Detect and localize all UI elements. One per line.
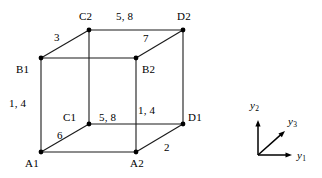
vertex-label-a2: A2 [130, 158, 144, 169]
cube-vertex-a1 [39, 150, 44, 155]
edge-label-a2-d1: 2 [164, 142, 170, 153]
vertex-label-a1: A1 [25, 158, 39, 169]
cube-vertex-b1 [39, 56, 44, 61]
axis-label-y3: y3 [288, 116, 297, 128]
edge-label-a1-c1: 6 [57, 130, 63, 141]
cube-vertex-c1 [87, 122, 92, 127]
axis-label-subscript-y1: 1 [302, 154, 306, 163]
cube-edge-a2-d1 [136, 124, 183, 152]
edge-label-c1-d1: 5, 8 [99, 112, 116, 123]
vertex-label-d2: D2 [177, 11, 191, 22]
axis-arrowhead-y1 [286, 152, 293, 157]
vertex-label-c1: C1 [63, 112, 76, 123]
cube-diagram-figure: A1A2B1B2C1C2D1D2 35, 871, 45, 81, 462 y1… [0, 0, 322, 178]
edge-label-b2-d2: 7 [143, 33, 149, 44]
diagram-canvas [0, 0, 322, 178]
vertex-label-d1: D1 [188, 112, 202, 123]
axis-arrowhead-y2 [255, 120, 260, 127]
edge-label-a1-b1: 1, 4 [9, 98, 26, 109]
axis-label-subscript-y2: 2 [255, 104, 259, 113]
axis-label-subscript-y3: 3 [293, 120, 297, 129]
cube-vertex-c2 [87, 28, 92, 33]
cube-edge-b1-c2 [41, 30, 89, 58]
cube-vertex-a2 [134, 150, 139, 155]
axis-label-y2: y2 [250, 100, 259, 112]
axis-shaft-y3 [258, 135, 281, 155]
axis-label-y1: y1 [297, 150, 306, 162]
vertex-label-b1: B1 [16, 64, 29, 75]
vertex-label-b2: B2 [142, 64, 155, 75]
edge-label-c2-d2: 5, 8 [116, 11, 133, 22]
cube-vertex-d2 [181, 28, 186, 33]
cube-vertex-b2 [134, 56, 139, 61]
edge-label-a2-b2: 1, 4 [138, 105, 155, 116]
edge-label-b1-c2: 3 [54, 32, 60, 43]
coordinate-axis-triad [255, 120, 292, 158]
cube-edge-a1-c1 [41, 124, 89, 152]
cube-vertex-d1 [181, 122, 186, 127]
vertex-label-c2: C2 [79, 11, 92, 22]
